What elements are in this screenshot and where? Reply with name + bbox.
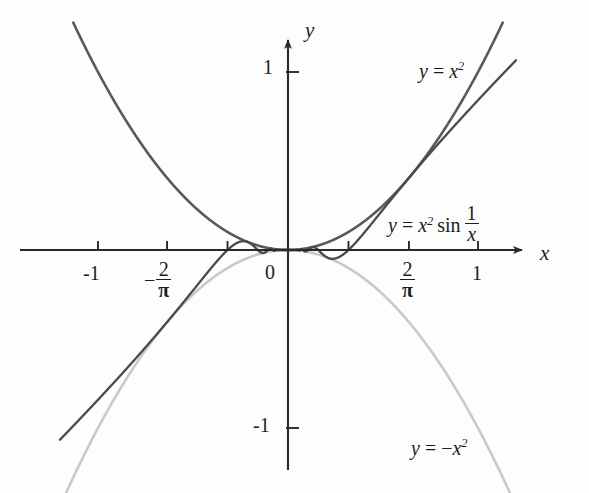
- fraction-numerator: 2: [400, 259, 415, 279]
- axes-group: [20, 40, 522, 470]
- eq-exponent: 2: [427, 214, 433, 228]
- eq-operator: =: [428, 60, 449, 82]
- label-neg-x-squared: y = −x2: [411, 437, 468, 458]
- label-x-squared: y = x2: [419, 60, 464, 81]
- eq-function-name: sin: [437, 214, 460, 236]
- eq-lhs: y: [388, 214, 397, 236]
- y-tick-label-neg-one: -1: [253, 415, 270, 435]
- x-tick-label-one: 1: [472, 263, 482, 283]
- x-tick-label-neg-one: -1: [83, 263, 100, 283]
- y-tick-label-one: 1: [263, 57, 273, 77]
- fraction-numerator: 1: [465, 203, 479, 223]
- x-tick-label-neg-two-over-pi: − 2 π: [144, 259, 172, 301]
- fraction-denominator: π: [400, 279, 415, 300]
- fraction-denominator: π: [156, 279, 171, 300]
- math-figure: y x 0 -1 − 2 π 2 π 1 1 -1 y = x2 y = x2s…: [0, 0, 589, 493]
- fraction-numerator: 2: [156, 259, 171, 279]
- eq-lhs: y: [411, 437, 420, 459]
- eq-exponent: 2: [458, 59, 464, 73]
- x-tick-label-two-over-pi: 2 π: [399, 259, 416, 301]
- eq-lhs: y: [419, 60, 428, 82]
- label-x-squared-sin: y = x2sin 1 x: [388, 203, 480, 245]
- eq-exponent: 2: [461, 436, 467, 450]
- eq-base: x: [452, 437, 461, 459]
- eq-operator: =: [397, 214, 418, 236]
- eq-operator: =: [420, 437, 441, 459]
- y-axis-label: y: [305, 20, 314, 41]
- x-axis-label: x: [540, 243, 549, 264]
- minus-sign: −: [144, 270, 155, 290]
- fraction-denominator: x: [465, 223, 479, 244]
- eq-base: x: [418, 214, 427, 236]
- eq-minus: −: [441, 437, 452, 459]
- origin-label: 0: [265, 262, 275, 282]
- eq-base: x: [449, 60, 458, 82]
- graph-canvas: [0, 0, 589, 493]
